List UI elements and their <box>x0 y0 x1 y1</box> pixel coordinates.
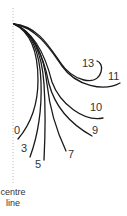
curve-label: 5 <box>35 158 41 170</box>
curve-label: 0 <box>14 124 20 136</box>
centre-line-label-line1: centre <box>0 187 25 197</box>
curve-label: 9 <box>92 124 98 136</box>
curve-11 <box>14 24 120 87</box>
curve-group <box>14 24 120 160</box>
curve-9 <box>14 24 92 136</box>
curve-label: 7 <box>68 148 74 160</box>
curve-labels: 03579101113 <box>14 57 119 170</box>
curve-label: 13 <box>82 57 94 69</box>
curve-5 <box>14 24 45 160</box>
growth-curves-diagram: 03579101113 centre line <box>0 0 127 216</box>
curve-label: 3 <box>21 142 27 154</box>
curve-label: 11 <box>108 70 119 82</box>
curve-label: 10 <box>90 101 102 113</box>
curve-7 <box>14 24 66 151</box>
centre-line-label-line2: line <box>6 198 20 208</box>
